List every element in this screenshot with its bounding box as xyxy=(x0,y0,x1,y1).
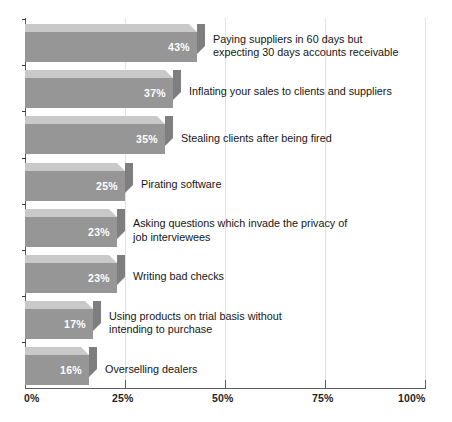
x-tick-label: 50% xyxy=(212,392,234,404)
bar-top-face xyxy=(25,24,197,32)
category-label: Pirating software xyxy=(141,178,221,192)
bar-top-face xyxy=(25,301,93,309)
bar-value-label: 25% xyxy=(96,180,118,192)
category-label: Asking questions which invade the privac… xyxy=(133,217,347,244)
category-label: Inflating your sales to clients and supp… xyxy=(189,85,392,99)
bar[interactable]: 16% xyxy=(25,347,97,385)
x-tick-label: 0% xyxy=(24,392,40,404)
bar-front-face: 37% xyxy=(25,78,173,108)
bar-value-label: 17% xyxy=(64,318,86,330)
bar-front-face: 25% xyxy=(25,171,125,201)
bar[interactable]: 17% xyxy=(25,301,101,339)
y-category-tick xyxy=(22,111,26,112)
bar-front-face: 23% xyxy=(25,217,117,247)
bar[interactable]: 23% xyxy=(25,255,125,293)
category-label: Overselling dealers xyxy=(105,363,197,377)
y-category-tick xyxy=(22,204,26,205)
bar-side-face xyxy=(173,70,181,100)
gridline-75 xyxy=(325,18,326,388)
category-label: Stealing clients after being fired xyxy=(181,132,332,146)
horizontal-bar-chart: 0%25%50%75%100% 43%37%35%25%23%23%17%16%… xyxy=(0,0,452,422)
bar-top-face xyxy=(25,209,117,217)
bar-front-face: 43% xyxy=(25,32,197,62)
bar-value-label: 43% xyxy=(168,41,190,53)
y-category-tick xyxy=(22,342,26,343)
bar-side-face xyxy=(125,163,133,193)
bar-top-face xyxy=(25,70,173,78)
bar-side-face xyxy=(197,24,205,54)
bar-front-face: 16% xyxy=(25,355,89,385)
y-category-tick xyxy=(22,250,26,251)
category-label: Writing bad checks xyxy=(133,270,224,284)
bar-front-face: 17% xyxy=(25,309,93,339)
bar-front-face: 23% xyxy=(25,263,117,293)
gridline-100 xyxy=(425,18,426,388)
bar-top-face xyxy=(25,255,117,263)
y-category-tick xyxy=(22,296,26,297)
y-category-tick xyxy=(22,65,26,66)
bar-value-label: 16% xyxy=(60,364,82,376)
y-category-tick xyxy=(22,158,26,159)
bar[interactable]: 23% xyxy=(25,209,125,247)
bar-value-label: 37% xyxy=(144,87,166,99)
x-tick-mark xyxy=(325,380,326,389)
bar-top-face xyxy=(25,163,125,171)
x-tick-label: 100% xyxy=(398,392,426,404)
category-label: Paying suppliers in 60 days but expectin… xyxy=(213,33,398,60)
bar-top-face xyxy=(25,347,89,355)
x-tick-label: 75% xyxy=(312,392,334,404)
bar[interactable]: 37% xyxy=(25,70,181,108)
bar-side-face xyxy=(165,116,173,146)
x-tick-mark xyxy=(225,380,226,389)
bar-side-face xyxy=(93,301,101,331)
bar-value-label: 35% xyxy=(136,133,158,145)
bar-value-label: 23% xyxy=(88,272,110,284)
bar[interactable]: 25% xyxy=(25,163,133,201)
bar-side-face xyxy=(117,209,125,239)
category-label: Using products on trial basis without in… xyxy=(109,310,282,337)
x-tick-label: 25% xyxy=(112,392,134,404)
bar-front-face: 35% xyxy=(25,124,165,154)
bar-top-face xyxy=(25,116,165,124)
bar[interactable]: 35% xyxy=(25,116,173,154)
bar-side-face xyxy=(117,255,125,285)
y-category-tick xyxy=(22,19,26,20)
x-tick-mark xyxy=(125,380,126,389)
bar[interactable]: 43% xyxy=(25,24,205,62)
bar-value-label: 23% xyxy=(88,226,110,238)
bar-side-face xyxy=(89,347,97,377)
x-tick-mark xyxy=(425,380,426,389)
